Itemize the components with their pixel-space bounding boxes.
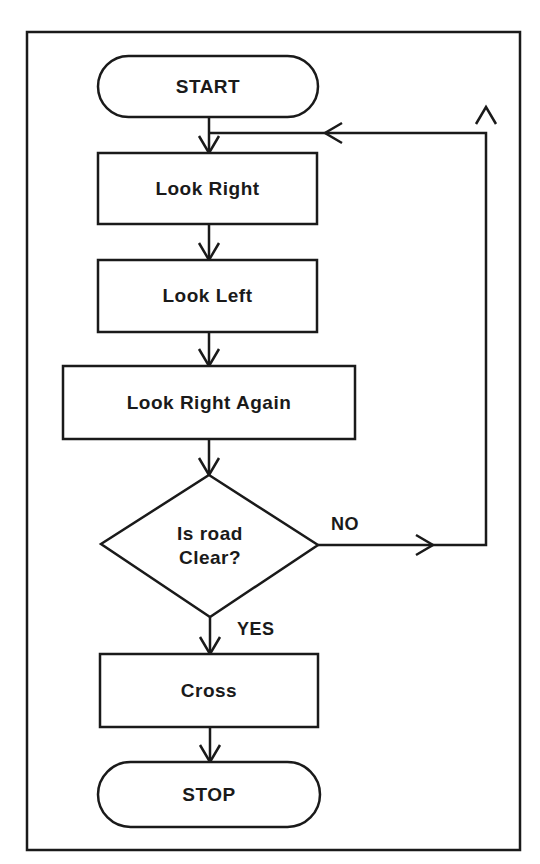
decision-node-label: Is road Clear? xyxy=(131,508,289,584)
cross-node-label: Cross xyxy=(100,654,318,727)
look-right-node-label: Look Right xyxy=(98,153,317,224)
stop-node-label: STOP xyxy=(98,762,320,827)
yes-branch-label: YES xyxy=(237,619,275,640)
no-branch-label: NO xyxy=(331,514,359,535)
start-node-label: START xyxy=(98,56,318,117)
decision-label-line-1: Is road xyxy=(177,522,243,546)
decision-label-line-2: Clear? xyxy=(179,546,241,570)
look-left-node-label: Look Left xyxy=(98,260,317,332)
arrowhead-up-icon xyxy=(476,107,496,124)
look-right-again-node-label: Look Right Again xyxy=(63,366,355,439)
